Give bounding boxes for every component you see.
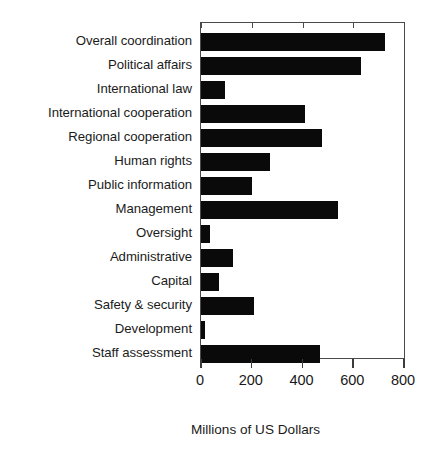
bar <box>201 273 219 291</box>
y-axis-label: Overall coordination <box>76 34 192 47</box>
x-axis-tick-label: 600 <box>340 372 364 388</box>
y-axis-label: Safety & security <box>94 298 192 311</box>
bar <box>201 177 252 195</box>
y-axis-label: International law <box>97 82 192 95</box>
y-axis-label: Regional cooperation <box>68 130 192 143</box>
y-axis-label: Development <box>115 322 192 335</box>
bar <box>201 249 233 267</box>
top-axis-tick <box>252 23 253 28</box>
bar <box>201 297 254 315</box>
top-axis-tick <box>353 23 354 28</box>
x-axis-title: Millions of US Dollars <box>0 422 433 437</box>
bar <box>201 153 270 171</box>
x-axis-tick <box>251 359 253 368</box>
plot-area <box>201 23 404 358</box>
bar <box>201 129 322 147</box>
x-axis-tick-label: 200 <box>239 372 263 388</box>
x-axis-tick-label: 800 <box>391 372 415 388</box>
top-axis-tick <box>404 23 405 28</box>
x-axis-tick-label: 400 <box>289 372 313 388</box>
bar <box>201 57 361 75</box>
y-axis-label: Administrative <box>110 250 192 263</box>
bar <box>201 201 338 219</box>
plot-frame <box>200 22 405 359</box>
y-axis-label: International cooperation <box>48 106 192 119</box>
y-axis-label: Public information <box>88 178 192 191</box>
y-axis-label: Human rights <box>114 154 192 167</box>
bar <box>201 225 210 243</box>
y-axis-label: Oversight <box>136 226 192 239</box>
y-axis-label: Management <box>116 202 192 215</box>
top-axis-tick <box>303 23 304 28</box>
x-axis-tick <box>302 359 304 368</box>
y-axis-label: Staff assessment <box>92 346 192 359</box>
x-axis-tick <box>352 359 354 368</box>
y-axis-label: Political affairs <box>108 58 192 71</box>
x-axis-tick-label: 0 <box>196 372 204 388</box>
top-axis-tick <box>201 23 202 28</box>
bar-chart: Overall coordinationPolitical affairsInt… <box>0 0 433 455</box>
y-axis-label: Capital <box>151 274 192 287</box>
y-axis-category-labels: Overall coordinationPolitical affairsInt… <box>0 22 196 359</box>
x-axis-tick <box>200 359 202 368</box>
bar <box>201 321 205 339</box>
bar <box>201 105 305 123</box>
x-axis-tick <box>403 359 405 368</box>
bar <box>201 81 225 99</box>
x-axis-ticks <box>200 359 405 371</box>
x-axis-tick-labels: 0200400600800 <box>160 372 433 392</box>
bar <box>201 33 385 51</box>
